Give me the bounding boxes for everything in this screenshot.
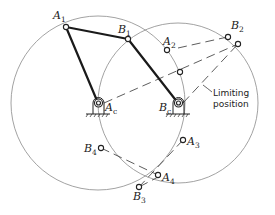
label-a1: A1 <box>52 9 66 24</box>
limiting-position-label-line2: position <box>213 99 249 109</box>
label-b4: B4 <box>83 142 97 157</box>
label-a4: A4 <box>161 171 175 186</box>
joint-b2-upper <box>225 34 230 39</box>
label-a3: A3 <box>186 135 200 150</box>
joint-a2 <box>164 47 169 52</box>
dashed-line-a2-b2 <box>178 36 232 48</box>
limiting-position-leader <box>203 85 212 92</box>
label-b2: B2 <box>230 19 244 34</box>
joint-a4 <box>155 172 160 177</box>
joint-b4 <box>98 145 103 150</box>
link-ac-a1 <box>66 27 98 103</box>
label-bc: Bc <box>158 101 171 116</box>
joint-a3 <box>180 137 185 142</box>
four-bar-linkage-diagram: A1 B1 A2 B2 Ac Bc A3 A4 B3 B4 Limiting p… <box>0 0 275 215</box>
joint-intermediate <box>177 69 182 74</box>
label-a2: A2 <box>162 35 176 50</box>
label-b3: B3 <box>132 190 146 205</box>
joint-b3 <box>136 184 141 189</box>
dashed-line-a3-b3 <box>139 140 183 187</box>
joint-a1 <box>63 24 68 29</box>
label-ac: Ac <box>104 101 117 116</box>
limiting-position-label-line1: Limiting <box>213 88 249 98</box>
label-b1: B1 <box>117 23 131 38</box>
joint-b2 <box>235 41 240 46</box>
